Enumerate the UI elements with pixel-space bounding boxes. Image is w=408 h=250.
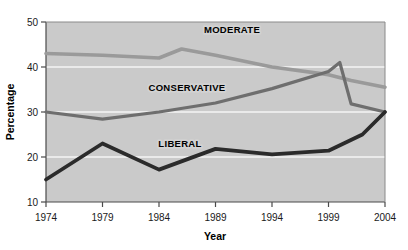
x-tick-group: 1974197919841989199419992004 <box>35 202 397 223</box>
x-tick-label-1974: 1974 <box>35 212 58 223</box>
percentage-by-year-line-chart: 1020304050 1974197919841989199419992004 … <box>0 0 408 250</box>
x-tick-label-1979: 1979 <box>91 212 114 223</box>
x-tick-label-1989: 1989 <box>204 212 227 223</box>
y-tick-label-50: 50 <box>27 17 39 28</box>
y-tick-label-10: 10 <box>27 197 39 208</box>
x-tick-label-1994: 1994 <box>261 212 284 223</box>
y-tick-group: 1020304050 <box>27 17 46 208</box>
x-tick-label-1999: 1999 <box>317 212 340 223</box>
series-label-conservative: CONSERVATIVE <box>149 82 226 93</box>
y-tick-label-30: 30 <box>27 107 39 118</box>
series-label-moderate: MODERATE <box>204 24 260 35</box>
x-axis-title: Year <box>204 230 226 242</box>
x-tick-label-2004: 2004 <box>374 212 397 223</box>
y-axis-title: Percentage <box>4 84 16 141</box>
y-tick-label-20: 20 <box>27 152 39 163</box>
series-label-liberal: LIBERAL <box>158 138 201 149</box>
chart-container: 1020304050 1974197919841989199419992004 … <box>0 0 408 250</box>
y-tick-label-40: 40 <box>27 62 39 73</box>
cropped-title-artifact <box>0 0 408 6</box>
x-tick-label-1984: 1984 <box>148 212 171 223</box>
